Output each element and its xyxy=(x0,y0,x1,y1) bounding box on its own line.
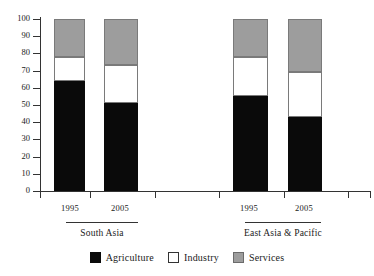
y-axis-tick-label: 10 xyxy=(0,169,30,178)
y-axis-tick-label: 80 xyxy=(0,48,30,57)
y-axis-tick-label: 100 xyxy=(0,14,30,23)
x-axis-tick xyxy=(90,192,91,198)
y-axis-tick xyxy=(33,122,40,123)
x-axis-tick xyxy=(155,192,156,198)
x-axis-tick xyxy=(348,192,349,198)
y-axis-tick-label: 20 xyxy=(0,152,30,161)
bar-segment-industry xyxy=(54,57,85,81)
stacked-bar xyxy=(233,19,268,191)
legend-swatch-icon xyxy=(168,252,179,263)
bar-segment-services xyxy=(104,19,138,65)
x-axis-category-label: 1995 xyxy=(44,203,96,213)
y-axis-line xyxy=(40,17,41,193)
y-axis-tick xyxy=(33,71,40,72)
stacked-bar xyxy=(54,19,85,191)
bar-segment-industry xyxy=(104,65,138,103)
y-axis-tick xyxy=(33,174,40,175)
bar-segment-agriculture xyxy=(104,103,138,191)
y-axis-tick xyxy=(33,191,40,192)
x-axis-tick xyxy=(219,192,220,198)
x-axis-tick xyxy=(370,192,371,198)
legend-item-serv: Services xyxy=(233,252,284,263)
legend-label: Industry xyxy=(184,252,219,263)
stacked-bar xyxy=(104,19,138,191)
x-axis-category-label: 2005 xyxy=(94,203,146,213)
group-label: East Asia & Pacific xyxy=(222,228,344,239)
legend-label: Services xyxy=(249,252,284,263)
bar-segment-agriculture xyxy=(54,81,85,191)
bar-segment-industry xyxy=(233,57,268,97)
y-axis-tick-label: 40 xyxy=(0,117,30,126)
stacked-bar-chart: 1009080706050403020100 1995200519952005 … xyxy=(0,0,374,276)
legend-item-agri: Agriculture xyxy=(90,252,154,263)
y-axis-tick xyxy=(33,53,40,54)
y-axis-tick-label: 70 xyxy=(0,66,30,75)
bar-segment-services xyxy=(288,19,322,72)
legend-swatch-icon xyxy=(233,252,244,263)
legend-item-indu: Industry xyxy=(168,252,219,263)
group-label: South Asia xyxy=(42,228,162,239)
chart-legend: AgricultureIndustryServices xyxy=(0,252,374,263)
x-axis-tick xyxy=(284,192,285,198)
x-axis-category-label: 2005 xyxy=(278,203,330,213)
y-axis-tick xyxy=(33,19,40,20)
legend-label: Agriculture xyxy=(106,252,154,263)
y-axis-tick-label: 30 xyxy=(0,134,30,143)
group-rule xyxy=(66,222,138,223)
bar-segment-services xyxy=(54,19,85,57)
x-axis-tick xyxy=(40,192,41,198)
y-axis-tick-label: 0 xyxy=(0,186,30,195)
group-rule xyxy=(245,222,321,223)
y-axis-tick xyxy=(33,105,40,106)
y-axis-tick xyxy=(33,36,40,37)
y-axis-tick xyxy=(33,88,40,89)
y-axis-tick-label: 90 xyxy=(0,31,30,40)
legend-swatch-icon xyxy=(90,252,101,263)
y-axis-tick xyxy=(33,157,40,158)
bar-segment-agriculture xyxy=(233,96,268,191)
stacked-bar xyxy=(288,19,322,191)
bar-segment-agriculture xyxy=(288,117,322,191)
x-axis-category-label: 1995 xyxy=(223,203,275,213)
y-axis-tick-label: 60 xyxy=(0,83,30,92)
y-axis-tick-label: 50 xyxy=(0,100,30,109)
bar-segment-services xyxy=(233,19,268,57)
y-axis-tick xyxy=(33,139,40,140)
bar-segment-industry xyxy=(288,72,322,117)
